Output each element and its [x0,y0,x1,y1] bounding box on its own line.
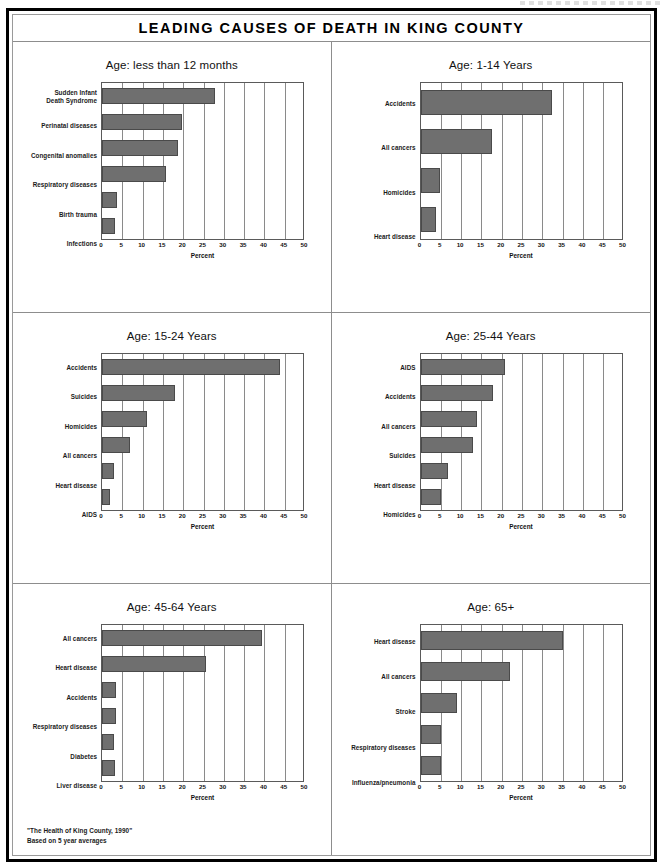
chart-title: Age: 65+ [332,601,651,613]
bar [421,207,436,231]
x-axis-tick-label: 50 [619,241,626,248]
chart-body: Sudden InfantDeath SyndromePerinatal dis… [13,82,331,259]
chart-title: Age: less than 12 months [13,59,331,71]
bar-row [421,625,622,656]
x-axis-tick-label: 25 [199,783,206,790]
category-label-line: Birth trauma [59,211,97,219]
bar [102,630,262,646]
poster-outer-frame: LEADING CAUSES OF DEATH IN KING COUNTY A… [6,8,657,862]
category-label-line: Suicides [389,452,415,460]
category-label: All cancers [332,659,416,694]
x-axis-tick-label: 35 [240,783,247,790]
source-footnote-line: Based on 5 year averages [27,836,132,846]
x-axis-tick-label: 45 [280,241,287,248]
plot-wrapper: 05101520253035404550Percent [101,353,304,530]
bar [102,760,115,776]
bar-row [421,458,622,484]
category-axis: AIDSAccidentsAll cancersSuicidesHeart di… [332,353,420,530]
bar [102,166,166,182]
category-label-line: Stroke [396,708,416,716]
category-label: Heart disease [332,624,416,659]
category-label-line: Diabetes [70,753,97,761]
bar [421,693,458,712]
category-label-line: All cancers [381,144,415,152]
x-axis-tick-label: 0 [418,783,421,790]
bar [421,489,441,505]
bar-row [102,484,303,510]
x-axis-tick-label: 5 [438,783,441,790]
x-axis-tick-label: 45 [280,783,287,790]
plot-area [101,353,304,511]
bar-row [421,484,622,510]
category-label: Homicides [13,412,97,442]
x-axis-tick-label: 10 [138,783,145,790]
x-axis-ticks: 05101520253035404550 [420,511,623,524]
category-axis: All cancersHeart diseaseAccidentsRespira… [13,624,101,801]
bar-row [102,729,303,755]
category-label-line: Death Syndrome [46,97,97,105]
x-axis-tick-label: 15 [477,241,484,248]
bar [421,411,478,427]
category-label: Congenital anomalies [13,141,97,171]
x-axis-tick-label: 35 [558,241,565,248]
x-axis-ticks: 05101520253035404550 [420,240,623,253]
bar-row [102,161,303,187]
category-label-line: Heart disease [55,482,97,490]
chart-title: Age: 25-44 Years [332,330,651,342]
bar [102,218,115,234]
category-label: All cancers [13,624,97,654]
category-axis: AccidentsSuicidesHomicidesAll cancersHea… [13,353,101,530]
x-axis-title: Percent [101,523,304,530]
bar-row [421,83,622,122]
bar [102,682,116,698]
x-axis-tick-label: 30 [219,241,226,248]
category-label-line: Accidents [385,100,416,108]
bar-row [421,719,622,750]
bar-row [421,354,622,380]
chart-panel: Age: 45-64 YearsAll cancersHeart disease… [13,584,332,855]
bar-row [421,122,622,161]
bar [102,140,178,156]
bar [102,437,130,453]
category-label: All cancers [13,442,97,472]
bar-row [102,703,303,729]
x-axis-tick-label: 20 [179,512,186,519]
bar-row [102,406,303,432]
bar [421,168,440,192]
chart-title: Age: 15-24 Years [13,330,331,342]
category-label-line: Accidents [385,393,416,401]
x-axis-tick-label: 10 [457,512,464,519]
category-label: Heart disease [332,215,416,259]
category-label-line: All cancers [381,673,415,681]
x-axis-tick-label: 50 [301,241,308,248]
bar-row [102,755,303,781]
bar-row [421,687,622,718]
x-axis-tick-label: 0 [99,783,102,790]
bar [421,725,441,744]
category-label: Accidents [13,353,97,383]
chart-body: AIDSAccidentsAll cancersSuicidesHeart di… [332,353,651,530]
x-axis-tick-label: 40 [260,512,267,519]
category-label-line: Homicides [65,423,97,431]
x-axis-ticks: 05101520253035404550 [101,511,304,524]
x-axis-tick-label: 15 [158,512,165,519]
source-footnote-line: "The Health of King County, 1990" [27,826,132,836]
category-label: Accidents [332,383,416,413]
category-label: Liver disease [13,772,97,802]
category-label-line: Perinatal diseases [41,122,97,130]
category-label-line: Respiratory diseases [33,723,97,731]
x-axis-tick-label: 45 [599,241,606,248]
category-label-line: Heart disease [374,233,416,241]
x-axis-tick-label: 20 [179,241,186,248]
category-label: Suicides [13,383,97,413]
bar [102,463,114,479]
x-axis-ticks: 05101520253035404550 [420,782,623,795]
x-axis-tick-label: 45 [280,512,287,519]
x-axis-tick-label: 5 [438,512,441,519]
bar-row [421,200,622,239]
bar [421,662,510,681]
category-label-line: Homicides [383,511,415,519]
category-axis: AccidentsAll cancersHomicidesHeart disea… [332,82,420,259]
plot-wrapper: 05101520253035404550Percent [420,624,623,801]
poster-inner-frame: LEADING CAUSES OF DEATH IN KING COUNTY A… [12,14,651,856]
